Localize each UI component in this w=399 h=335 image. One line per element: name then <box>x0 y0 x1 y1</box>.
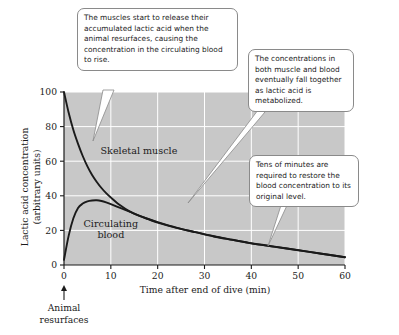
animal-resurfaces-note: Animal resurfaces <box>17 302 111 325</box>
x-axis-title: Time after end of dive (min) <box>64 284 346 295</box>
y-tick-label-100: 100 <box>39 86 57 97</box>
y-tick-label-80: 80 <box>45 121 57 132</box>
x-tick-label-60: 60 <box>339 270 351 281</box>
figure-container: 0102030405060020406080100 Skeletal muscl… <box>0 0 399 335</box>
curve-label-skeletal-muscle: Skeletal muscle <box>101 145 178 156</box>
callout-muscle-release: The muscles start to release their accum… <box>77 8 238 71</box>
y-tick-label-60: 60 <box>45 156 57 167</box>
y-tick-label-20: 20 <box>45 225 57 236</box>
animal-resurfaces-line1: Animal <box>17 302 111 314</box>
y-axis-title-line2: (arbitrary units) <box>31 97 43 277</box>
callout-both-fall: The concentrations in both muscle and bl… <box>248 49 354 112</box>
x-tick-label-0: 0 <box>61 270 67 281</box>
x-tick-label-50: 50 <box>292 270 304 281</box>
x-tick-label-20: 20 <box>152 270 164 281</box>
y-tick-label-0: 0 <box>51 259 57 270</box>
y-tick-label-40: 40 <box>45 190 57 201</box>
animal-resurfaces-line2: resurfaces <box>17 314 111 326</box>
x-tick-label-40: 40 <box>245 270 257 281</box>
x-tick-label-30: 30 <box>199 270 211 281</box>
y-axis-title: Lactic acid concentration (arbitrary uni… <box>19 97 43 277</box>
x-tick-label-10: 10 <box>105 270 117 281</box>
callout-tens-minutes: Tens of minutes are required to restore … <box>249 155 359 207</box>
y-axis-title-line1: Lactic acid concentration <box>19 97 31 277</box>
curve-label-circulating-blood-line2: blood <box>97 229 124 240</box>
curve-label-circulating-blood-line1: Circulating <box>84 218 139 229</box>
